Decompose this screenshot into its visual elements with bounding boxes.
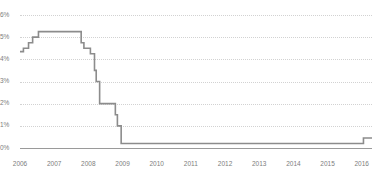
x-tick-label-2006: 2006 (5, 160, 35, 168)
y-tick-label-3pct: 3% (0, 77, 17, 85)
y-tick-label-6pct: 6% (0, 11, 17, 19)
y-tick-label-5pct: 5% (0, 33, 17, 41)
plot-area (20, 15, 372, 148)
x-tick-label-2007: 2007 (39, 160, 69, 168)
y-tick-label-1pct: 1% (0, 121, 17, 129)
x-tick-label-2010: 2010 (142, 160, 172, 168)
series-line-chart (20, 15, 372, 148)
x-tick-label-2008: 2008 (73, 160, 103, 168)
x-tick-label-2012: 2012 (210, 160, 240, 168)
chart-container: 0%1%2%3%4%5%6% 2006200720082009201020112… (0, 0, 382, 181)
x-tick-label-2015: 2015 (313, 160, 343, 168)
x-tick-label-2014: 2014 (278, 160, 308, 168)
y-tick-label-0pct: 0% (0, 144, 17, 152)
gridline-0pct (20, 148, 372, 149)
y-tick-label-2pct: 2% (0, 99, 17, 107)
x-tick-label-2013: 2013 (244, 160, 274, 168)
series-rate-line (20, 32, 372, 144)
y-tick-label-4pct: 4% (0, 55, 17, 63)
x-tick-label-2011: 2011 (176, 160, 206, 168)
x-tick-label-2009: 2009 (108, 160, 138, 168)
x-tick-label-2016: 2016 (347, 160, 377, 168)
